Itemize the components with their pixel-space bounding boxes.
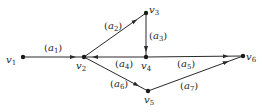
edge-label-a6: (a6) — [110, 79, 128, 91]
arrowhead-a7 — [224, 62, 226, 63]
node-label-v3: v3 — [149, 5, 159, 17]
edge-label-a3: (a3) — [149, 31, 167, 43]
node-v2 — [82, 55, 86, 59]
node-label-v1: v1 — [6, 55, 16, 67]
edge-label-a4: (a4) — [115, 59, 133, 71]
edge-label-a1: (a1) — [44, 43, 62, 55]
node-v6 — [241, 54, 245, 58]
graph-edges — [0, 0, 262, 112]
directed-graph-diagram: v1 v2 v3 v4 v5 v6 (a1) (a2) (a3) (a4) (a… — [0, 0, 262, 112]
node-v3 — [144, 11, 148, 15]
node-label-v4: v4 — [141, 61, 151, 73]
edge-label-a5: (a5) — [177, 59, 195, 71]
arrowhead-a6 — [135, 84, 137, 85]
node-v5 — [146, 89, 150, 93]
node-v4 — [144, 55, 148, 59]
node-label-v6: v6 — [246, 52, 256, 64]
arrowhead-a2 — [133, 21, 135, 22]
node-label-v5: v5 — [144, 95, 154, 107]
edge-label-a2: (a2) — [104, 21, 122, 33]
edge-label-a7: (a7) — [180, 81, 198, 93]
node-label-v2: v2 — [76, 61, 86, 73]
edge-a2 — [84, 13, 146, 57]
node-v1 — [21, 55, 25, 59]
edge-a5 — [146, 56, 243, 57]
